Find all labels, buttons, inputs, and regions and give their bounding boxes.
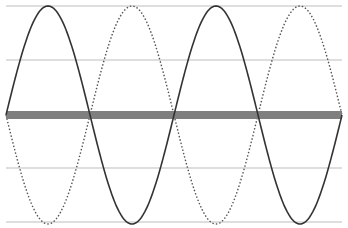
standing-wave-diagram xyxy=(0,0,348,228)
